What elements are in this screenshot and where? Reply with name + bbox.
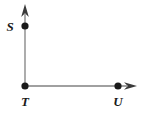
point-t-label: T — [21, 94, 30, 109]
point-u-dot — [114, 82, 121, 89]
point-s-label: S — [6, 19, 13, 34]
point-u-label: U — [113, 94, 123, 109]
point-t-dot — [21, 82, 28, 89]
geometry-figure-svg: S T U — [0, 0, 145, 114]
point-s-dot — [21, 22, 28, 29]
geometry-figure-canvas: S T U — [0, 0, 145, 114]
